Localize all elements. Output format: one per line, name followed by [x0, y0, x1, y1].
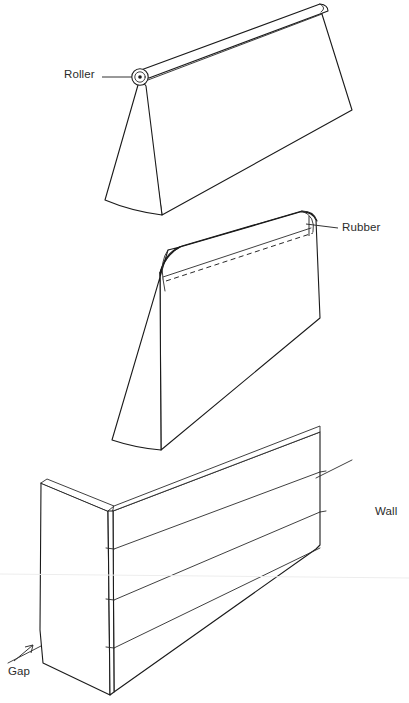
roller-hub-icon — [138, 75, 142, 79]
wall-extension-line — [316, 460, 352, 478]
wall-group — [8, 426, 352, 695]
middle-wedge-front-face — [160, 212, 320, 450]
gap-ground-line — [8, 646, 41, 663]
diagram-svg — [0, 0, 409, 703]
label-wall: Wall — [375, 506, 397, 518]
diagram-canvas: Roller Rubber Wall Gap — [0, 0, 409, 703]
top-wedge-group — [102, 4, 352, 215]
label-rubber: Rubber — [342, 222, 380, 234]
middle-wedge-group — [112, 211, 338, 450]
wall-right-tick-2 — [320, 511, 326, 512]
wall-right-tick-1 — [320, 471, 326, 472]
gap-arrow-shaft — [14, 645, 33, 661]
label-gap: Gap — [8, 666, 30, 678]
label-roller: Roller — [64, 69, 95, 81]
wall-end-face — [40, 483, 110, 695]
